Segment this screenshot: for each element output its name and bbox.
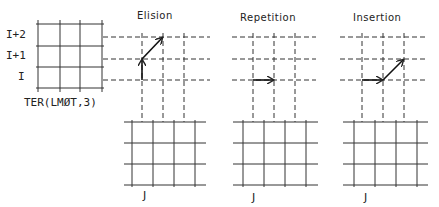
row-label-i-plus-2: I+2: [6, 28, 26, 41]
row-label-i: I: [18, 70, 25, 83]
panel-title-repetition: Repetition: [240, 12, 296, 23]
column-label-j-insertion: J: [364, 191, 367, 204]
source-grid-caption: TER(LMØT,3): [24, 96, 97, 109]
target-grid-repetition: [233, 120, 318, 187]
insertion-arrow-diagonal: [383, 60, 403, 80]
panel-title-elision: Elision: [137, 10, 173, 21]
row-guides: [103, 37, 426, 80]
panel-title-insertion: Insertion: [353, 12, 401, 23]
elision-arrow-diagonal: [142, 38, 162, 59]
column-guides: [142, 33, 404, 122]
source-grid: [36, 20, 104, 92]
target-grid-elision: [124, 120, 206, 187]
column-label-j-elision: J: [143, 189, 146, 202]
alignment-diagram: I+2 I+1 I TER(LMØT,3) Elision Repetition…: [0, 0, 439, 207]
target-grid-insertion: [343, 120, 428, 187]
column-label-j-repetition: J: [252, 191, 255, 204]
row-label-i-plus-1: I+1: [6, 49, 26, 62]
